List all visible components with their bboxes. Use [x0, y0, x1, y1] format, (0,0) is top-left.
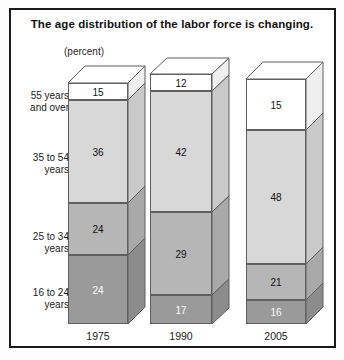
segment-value: 15 — [247, 99, 305, 110]
segment-2005-35-54[interactable]: 48 — [246, 130, 306, 264]
segment-2005-16-24[interactable]: 16 — [246, 300, 306, 324]
segment-value: 16 — [247, 307, 305, 318]
segment-2005-55-over[interactable]: 15 — [246, 79, 306, 130]
segment-value: 48 — [247, 192, 305, 203]
segment-2005-25-34[interactable]: 21 — [246, 264, 306, 300]
chart-canvas: The age distribution of the labor force … — [0, 0, 344, 360]
year-label-2005: 2005 — [246, 330, 306, 342]
segment-value: 21 — [247, 277, 305, 288]
